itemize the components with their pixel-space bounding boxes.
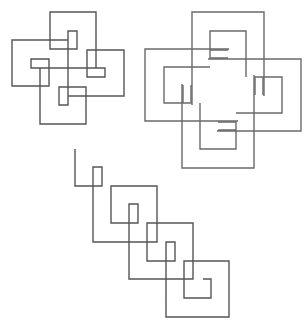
figure-large-knot <box>145 12 301 168</box>
spiral-chain-path <box>75 149 229 317</box>
figure-diagonal-spiral-chain <box>75 149 229 317</box>
figure-small-knot <box>12 12 124 124</box>
knot-figures-canvas <box>0 0 307 325</box>
